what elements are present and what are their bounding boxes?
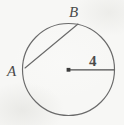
radius-measure-label: 4	[89, 54, 97, 69]
chord-segment-ab	[25, 24, 78, 68]
point-label-b: B	[69, 5, 78, 20]
figure-canvas	[0, 0, 124, 125]
circle-geometry-figure: A B 4	[0, 0, 124, 125]
circle-center-dot	[67, 68, 71, 72]
point-label-a: A	[7, 64, 16, 79]
